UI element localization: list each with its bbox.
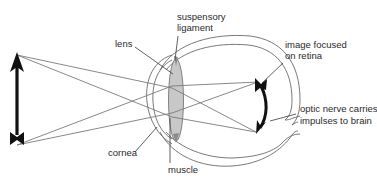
- label-optic-nerve-1: optic nerve carries: [300, 103, 377, 114]
- light-rays: [17, 55, 258, 145]
- label-optic-nerve-2: impulses to brain: [300, 115, 372, 126]
- label-cornea: cornea: [108, 147, 138, 158]
- leader-optic-nerve: [270, 114, 296, 121]
- ray: [172, 117, 256, 132]
- ray: [17, 55, 172, 88]
- leader-suspensory-ligament: [175, 36, 178, 60]
- label-suspensory-ligament-2: ligament: [177, 22, 213, 33]
- label-suspensory-ligament-1: suspensory: [177, 11, 226, 22]
- label-image-focused-1: image focused: [285, 39, 347, 50]
- leader-lens: [135, 47, 173, 74]
- ray: [172, 82, 258, 86]
- ray: [172, 82, 258, 113]
- eyeball-inner-wall: [166, 44, 292, 158]
- leader-image-focused: [262, 63, 283, 83]
- retina-image-arrow: [255, 78, 267, 134]
- label-image-focused-2: on retina: [285, 50, 323, 61]
- object-arrow: [10, 52, 24, 145]
- ray: [17, 113, 172, 145]
- label-muscle: muscle: [168, 164, 198, 175]
- eye-diagram: lens suspensory ligament image focused o…: [0, 0, 377, 183]
- lens: [169, 59, 184, 141]
- ray: [172, 88, 256, 132]
- ray: [17, 55, 172, 117]
- label-lens: lens: [115, 38, 133, 49]
- optic-nerve: [285, 116, 300, 140]
- leader-cornea: [135, 127, 157, 152]
